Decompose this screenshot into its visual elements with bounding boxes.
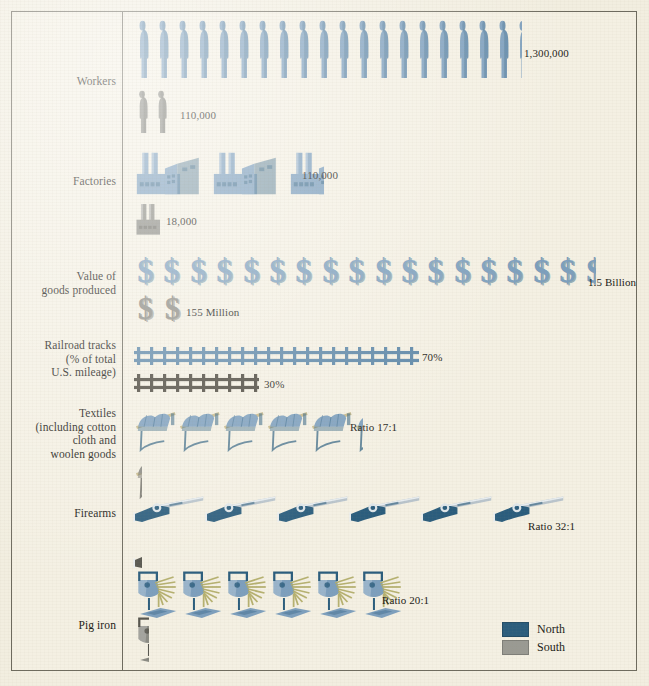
- dollar-sign-icon: $$: [134, 294, 159, 324]
- svg-text:$: $: [165, 294, 180, 324]
- textile-loom-icon-partial: [134, 457, 142, 499]
- worker-icon: [134, 90, 150, 133]
- molten-iron-ladle-icon: [314, 570, 358, 620]
- svg-text:$: $: [401, 255, 417, 287]
- worker-icon: [194, 20, 211, 78]
- factory-icon: [211, 150, 283, 196]
- svg-text:$: $: [560, 255, 576, 287]
- value-firearms-north: Ratio 32:1: [528, 520, 575, 532]
- dollar-sign-icon: $$: [530, 255, 555, 287]
- series-factories-north: [134, 150, 324, 196]
- series-value-north: $$$$$$$$$$$$$$$$$$$$$$$$$$$$$$$$$$$$: [134, 255, 596, 287]
- worker-icon: [374, 20, 391, 78]
- svg-text:$: $: [137, 255, 153, 287]
- svg-text:$: $: [454, 255, 470, 287]
- legend-label-north: North: [537, 622, 565, 637]
- svg-text:$: $: [138, 294, 153, 324]
- value-pigiron-north: Ratio 20:1: [382, 594, 429, 606]
- series-textiles-north: [134, 410, 363, 452]
- label-line: goods produced: [12, 284, 116, 298]
- railroad-track-north: [134, 347, 419, 365]
- label-line: Workers: [12, 75, 116, 89]
- factory-icon-partial: [134, 202, 160, 236]
- svg-text:$: $: [164, 255, 180, 287]
- molten-iron-ladle-icon: [269, 570, 313, 620]
- row-label-workers: Workers: [12, 75, 116, 89]
- svg-text:$: $: [348, 255, 364, 287]
- dollar-sign-icon: $$: [319, 255, 344, 287]
- svg-text:$: $: [428, 255, 444, 287]
- row-label-pig-iron: Pig iron: [12, 619, 116, 633]
- worker-icon-partial: [514, 20, 522, 78]
- textile-loom-icon: [222, 410, 264, 452]
- worker-icon: [414, 20, 431, 78]
- legend-swatch-north: [502, 622, 529, 637]
- worker-icon: [474, 20, 491, 78]
- legend-swatch-south: [502, 640, 529, 655]
- worker-icon: [314, 20, 331, 78]
- legend-item-north: North: [502, 622, 620, 637]
- series-firearms-north: [132, 494, 564, 534]
- dollar-sign-icon: $$: [503, 255, 528, 287]
- series-workers-north: [134, 20, 522, 78]
- worker-icon: [394, 20, 411, 78]
- value-value-south: 155 Million: [186, 306, 239, 318]
- rifle-icon: [132, 494, 204, 534]
- series-workers-south: [134, 90, 172, 133]
- label-line: U.S. mileage): [12, 366, 116, 380]
- svg-text:$: $: [533, 255, 549, 287]
- label-line: cloth and: [12, 434, 116, 448]
- dollar-sign-icon: $$: [134, 255, 159, 287]
- molten-iron-ladle-icon: [134, 570, 178, 620]
- worker-icon: [294, 20, 311, 78]
- worker-icon: [254, 20, 271, 78]
- svg-text:$: $: [190, 255, 206, 287]
- value-factories-north: 110,000: [302, 169, 338, 181]
- series-factories-south: [134, 202, 160, 236]
- textile-loom-icon: [178, 410, 220, 452]
- label-line: Textiles: [12, 407, 116, 421]
- textile-loom-icon: [134, 410, 176, 452]
- dollar-sign-icon: $$: [451, 255, 476, 287]
- svg-text:$: $: [269, 255, 285, 287]
- worker-icon: [274, 20, 291, 78]
- label-line: Firearms: [12, 507, 116, 521]
- row-label-factories: Factories: [12, 175, 116, 189]
- dollar-sign-icon: $$: [477, 255, 502, 287]
- worker-icon: [234, 20, 251, 78]
- value-factories-south: 18,000: [166, 215, 197, 227]
- dollar-sign-icon: $$: [424, 255, 449, 287]
- rifle-icon: [276, 494, 348, 534]
- dollar-sign-icon: $$: [266, 255, 291, 287]
- svg-text:$: $: [296, 255, 312, 287]
- series-pigiron-south: [134, 616, 149, 666]
- svg-text:$: $: [480, 255, 496, 287]
- svg-text:$: $: [375, 255, 391, 287]
- worker-icon: [154, 20, 171, 78]
- series-textiles-south: [134, 457, 142, 499]
- label-line: Value of: [12, 270, 116, 284]
- row-label-railroad-tracks: Railroad tracks (% of total U.S. mileage…: [12, 339, 116, 380]
- worker-icon: [354, 20, 371, 78]
- rifle-icon: [420, 494, 492, 534]
- label-line: Railroad tracks: [12, 339, 116, 353]
- molten-iron-ladle-icon: [224, 570, 268, 620]
- row-label-firearms: Firearms: [12, 507, 116, 521]
- worker-icon: [153, 90, 169, 133]
- rifle-icon: [348, 494, 420, 534]
- dollar-sign-icon: $$: [240, 255, 265, 287]
- legend: North South: [502, 622, 620, 658]
- dollar-sign-icon: $$: [292, 255, 317, 287]
- dollar-sign-icon: $$: [160, 255, 185, 287]
- series-value-south: $$$$: [134, 294, 188, 324]
- series-pigiron-north: [134, 570, 404, 620]
- dollar-sign-icon: $$: [345, 255, 370, 287]
- dollar-sign-icon: $$: [161, 294, 186, 324]
- value-rail-south: 30%: [264, 378, 284, 390]
- row-label-value-of-goods: Value of goods produced: [12, 270, 116, 297]
- svg-text:$: $: [507, 255, 523, 287]
- svg-text:$: $: [217, 255, 233, 287]
- legend-item-south: South: [502, 640, 620, 655]
- value-value-north: 1.5 Billion: [588, 276, 636, 288]
- textile-loom-icon: [310, 410, 352, 452]
